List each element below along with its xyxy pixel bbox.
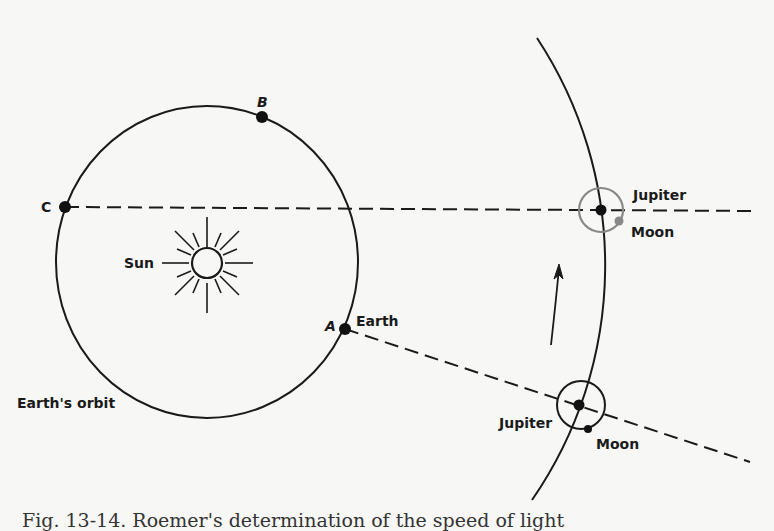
jupiter-top	[596, 205, 607, 216]
jupiter-bottom	[574, 400, 585, 411]
sightline-a-jupiter	[345, 329, 750, 462]
label-point-a: A	[325, 319, 336, 333]
moon-top	[615, 217, 624, 226]
sun-icon	[162, 217, 253, 313]
figure-caption: Fig. 13-14. Roemer's determination of th…	[22, 511, 564, 530]
label-earths-orbit: Earth's orbit	[17, 396, 115, 410]
label-sun: Sun	[124, 256, 154, 270]
label-moon-top: Moon	[631, 225, 674, 239]
label-point-c: C	[41, 200, 51, 214]
label-moon-bottom: Moon	[596, 437, 639, 451]
earth-position-b	[256, 111, 268, 123]
earth-position-c	[59, 201, 71, 213]
moon-bottom	[584, 425, 592, 433]
label-earth: Earth	[356, 314, 399, 328]
label-jupiter-bottom: Jupiter	[499, 416, 552, 430]
label-point-b: B	[257, 95, 268, 109]
earth-position-a	[339, 323, 351, 335]
label-jupiter-top: Jupiter	[633, 188, 686, 202]
sightline-c-jupiter	[65, 207, 757, 211]
orbit-direction-arrow-icon	[551, 264, 563, 345]
